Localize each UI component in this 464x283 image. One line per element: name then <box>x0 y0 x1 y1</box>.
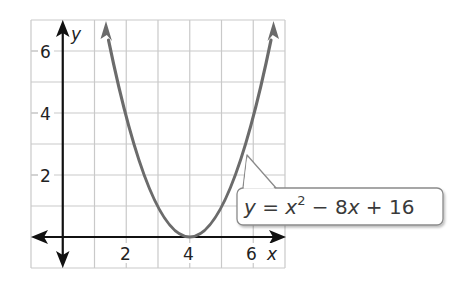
x-ticks: 2 4 6 <box>118 243 261 264</box>
curve-right-arrow-icon <box>268 21 280 41</box>
x-tick-label-6: 6 <box>246 244 257 264</box>
parabola-graph: 6 4 2 2 4 6 y x y = x2 − 8x + 16 <box>0 0 464 283</box>
equation-label: y = x2 − 8x + 16 <box>243 193 414 219</box>
x-tick-label-4: 4 <box>183 244 194 264</box>
y-tick-label-2: 2 <box>40 166 51 186</box>
y-axis-label: y <box>70 24 82 44</box>
curve-left-arrow-icon <box>101 21 113 41</box>
x-axis-label: x <box>266 244 278 264</box>
y-tick-label-6: 6 <box>40 42 51 62</box>
x-tick-label-2: 2 <box>120 244 131 264</box>
equation-callout: y = x2 − 8x + 16 <box>237 155 443 225</box>
y-ticks: 6 4 2 <box>31 42 54 186</box>
y-tick-label-4: 4 <box>40 104 51 124</box>
